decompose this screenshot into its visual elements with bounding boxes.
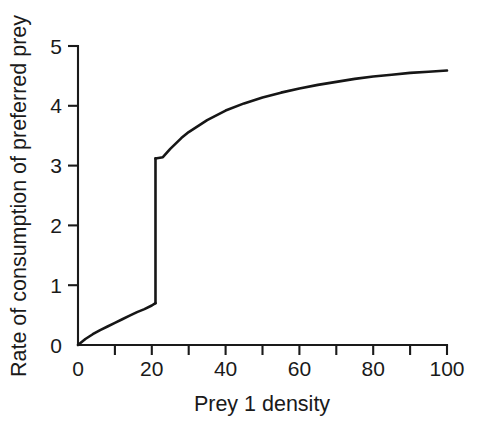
y-tick-label-2: 2	[50, 214, 62, 237]
x-tick-label-80: 80	[362, 357, 385, 380]
y-tick-label-3: 3	[50, 154, 62, 177]
y-tick-label-0: 0	[50, 334, 62, 357]
x-axis-title: Prey 1 density	[194, 392, 330, 416]
x-tick-label-0: 0	[72, 357, 84, 380]
y-tick-label-1: 1	[50, 274, 62, 297]
x-tick-label-60: 60	[288, 357, 311, 380]
x-tick-label-40: 40	[214, 357, 237, 380]
x-tick-label-20: 20	[140, 357, 163, 380]
y-tick-label-4: 4	[50, 94, 62, 117]
chart-figure: 012345 020406080100 Prey 1 density Rate …	[0, 0, 487, 424]
x-tick-label-100: 100	[429, 357, 464, 380]
y-tick-label-5: 5	[50, 35, 62, 58]
y-axis-title: Rate of consumption of preferred prey	[7, 15, 31, 377]
